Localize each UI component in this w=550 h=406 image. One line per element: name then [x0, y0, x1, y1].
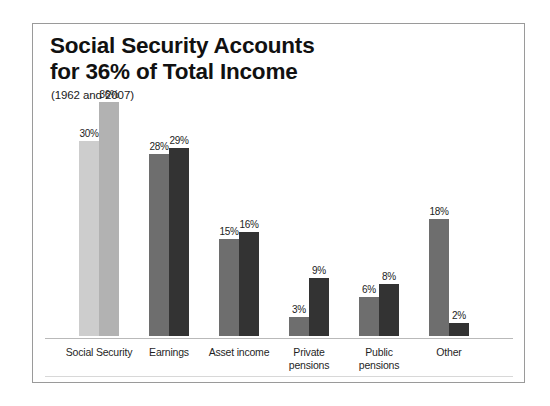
- bar-rect: [309, 278, 329, 337]
- bar-value-label: 8%: [382, 271, 396, 282]
- bar-series-1: 15%: [219, 76, 239, 336]
- bar-series-1: 28%: [149, 76, 169, 336]
- bar-value-label: 36%: [99, 89, 118, 100]
- bar-value-label: 18%: [429, 206, 448, 217]
- bar-value-label: 6%: [362, 284, 376, 295]
- bar-rect: [289, 317, 309, 337]
- bar-group: 30%36%: [79, 76, 119, 336]
- bar-rect: [219, 239, 239, 337]
- bar-rect: [379, 284, 399, 336]
- bar-value-label: 2%: [452, 310, 466, 321]
- bar-group: 6%8%: [359, 76, 399, 336]
- bar-rect: [429, 219, 449, 336]
- bar-series-2: 36%: [99, 76, 119, 336]
- bar-value-label: 3%: [292, 304, 306, 315]
- bar-series-2: 2%: [449, 76, 469, 336]
- bar-rect: [359, 297, 379, 336]
- bar-value-label: 28%: [149, 141, 168, 152]
- bar-value-label: 9%: [312, 265, 326, 276]
- bar-group: 3%9%: [289, 76, 329, 336]
- category-label: Other: [403, 346, 495, 359]
- bar-rect: [239, 232, 259, 336]
- bar-series-2: 29%: [169, 76, 189, 336]
- bar-series-1: 3%: [289, 76, 309, 336]
- bar-value-label: 29%: [169, 135, 188, 146]
- axis-baseline: [45, 338, 513, 339]
- bar-rect: [169, 148, 189, 337]
- bar-rect: [449, 323, 469, 336]
- bar-value-label: 16%: [239, 219, 258, 230]
- bar-series-2: 16%: [239, 76, 259, 336]
- plot-area: 30%36%28%29%15%16%3%9%6%8%18%2% Social S…: [33, 24, 524, 382]
- category-label-rule: [45, 376, 513, 377]
- bar-value-label: 30%: [79, 128, 98, 139]
- bar-series-1: 6%: [359, 76, 379, 336]
- bar-value-label: 15%: [219, 226, 238, 237]
- bar-group: 18%2%: [429, 76, 469, 336]
- bar-series-2: 8%: [379, 76, 399, 336]
- bar-group: 15%16%: [219, 76, 259, 336]
- bar-series-2: 9%: [309, 76, 329, 336]
- bar-series-1: 18%: [429, 76, 449, 336]
- bar-rect: [149, 154, 169, 336]
- chart-card: Social Security Accounts for 36% of Tota…: [32, 23, 525, 383]
- bar-rect: [79, 141, 99, 336]
- bar-rect: [99, 102, 119, 336]
- bar-series-1: 30%: [79, 76, 99, 336]
- bar-group: 28%29%: [149, 76, 189, 336]
